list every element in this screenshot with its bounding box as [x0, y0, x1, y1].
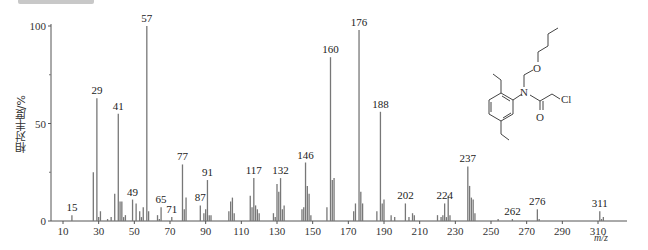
x-tick-label: 150 [304, 225, 321, 237]
y-tick-label: 0 [41, 215, 47, 227]
peak-label: 49 [127, 186, 139, 198]
peak-label: 132 [272, 164, 289, 176]
y-axis-label: 相对丰度/% [14, 95, 28, 153]
x-tick-label: 90 [200, 225, 212, 237]
peak-label: 146 [297, 149, 314, 161]
benzene-ring [489, 93, 513, 121]
spectrum-bars [72, 26, 603, 221]
peak-label: 311 [592, 197, 608, 209]
peak-label: 276 [529, 195, 546, 207]
ring-double-bond [502, 96, 510, 101]
peak-label: 224 [436, 189, 453, 201]
x-tick-label: 170 [340, 225, 357, 237]
atom-o-ether: O [533, 62, 541, 74]
x-tick-label: 130 [269, 225, 286, 237]
peak-label: 117 [246, 164, 263, 176]
x-tick-label: 250 [483, 225, 500, 237]
peak-label: 87 [195, 191, 207, 203]
y-tick-label: 100 [30, 20, 47, 32]
peak-label: 15 [66, 201, 78, 213]
atom-cl: Cl [561, 93, 571, 105]
peak-label: 77 [177, 150, 189, 162]
atom-o-carbonyl: O [536, 111, 544, 123]
x-tick-label: 30 [93, 225, 105, 237]
peak-labels: 1529414957657177879111713214616017618820… [66, 12, 607, 217]
peak-label: 41 [113, 100, 124, 112]
x-tick-label: 10 [58, 225, 70, 237]
peak-label: 188 [372, 98, 389, 110]
y-tick-label: 50 [35, 118, 47, 130]
x-tick-label: 70 [165, 225, 177, 237]
peak-label: 29 [91, 84, 103, 96]
x-tick-label: 190 [376, 225, 393, 237]
x-tick-label: 50 [129, 225, 141, 237]
atom-n: N [520, 86, 528, 98]
x-tick-label: 110 [233, 225, 250, 237]
peak-label: 91 [202, 166, 213, 178]
molecule-structure [0, 0, 560, 140]
peak-label: 262 [504, 205, 521, 217]
x-axis-label: m/z [594, 232, 608, 243]
x-tick-label: 210 [411, 225, 428, 237]
peak-label: 176 [351, 16, 368, 28]
x-tick-label: 230 [447, 225, 464, 237]
mass-spectrum-chart: 0501001030507090110130150170190210230250… [0, 0, 648, 250]
peak-label: 237 [460, 152, 477, 164]
peak-label: 57 [141, 12, 153, 24]
peak-label: 202 [397, 189, 414, 201]
peak-label: 160 [322, 43, 339, 55]
x-tick-label: 270 [518, 225, 535, 237]
peak-label: 71 [166, 203, 177, 215]
x-tick-label: 290 [554, 225, 571, 237]
